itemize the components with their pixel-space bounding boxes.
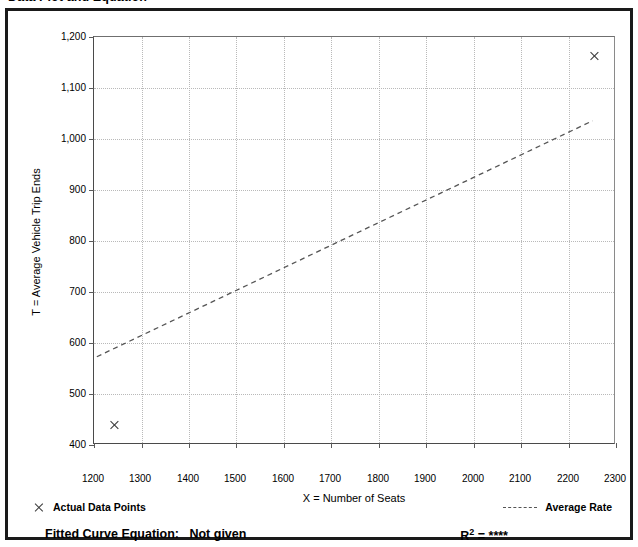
legend-label-actual: Actual Data Points [53, 501, 146, 513]
x-tick-label: 1200 [82, 473, 104, 484]
x-tick-mark [94, 443, 95, 448]
legend-label-average: Average Rate [545, 501, 612, 513]
legend-item-average-rate: Average Rate [503, 501, 612, 513]
x-tick-label: 2100 [509, 473, 531, 484]
x-tick-mark [379, 443, 380, 448]
plot-area [93, 36, 615, 444]
y-tick-label: 900 [34, 184, 86, 195]
dashed-line-icon [503, 507, 537, 508]
x-tick-label: 2300 [604, 473, 626, 484]
y-tick-label: 600 [34, 337, 86, 348]
y-tick-label: 1,200 [34, 31, 86, 42]
y-tick-mark [89, 445, 94, 446]
fitted-curve-equation-label: Fitted Curve Equation: [45, 527, 179, 541]
x-tick-mark [236, 443, 237, 448]
chart-card: T = Average Vehicle Trip Ends 1,200 1,10… [5, 8, 633, 540]
x-tick-label: 1900 [414, 473, 436, 484]
x-tick-label: 2200 [557, 473, 579, 484]
chart-legend: Actual Data Points Average Rate [8, 501, 630, 525]
r-squared-label: R [460, 529, 469, 543]
x-tick-mark [474, 443, 475, 448]
r-squared-equals: = [478, 529, 485, 543]
y-tick-label: 700 [34, 286, 86, 297]
x-tick-label: 2000 [462, 473, 484, 484]
x-tick-mark [189, 443, 190, 448]
x-tick-mark [284, 443, 285, 448]
x-marker-icon [33, 502, 44, 513]
y-tick-label: 800 [34, 235, 86, 246]
page-title: Data Plot and Equation [8, 0, 628, 6]
x-tick-mark [616, 443, 617, 448]
y-tick-label: 500 [34, 388, 86, 399]
x-tick-mark [331, 443, 332, 448]
x-tick-mark [142, 443, 143, 448]
x-tick-label: 1700 [319, 473, 341, 484]
x-tick-label: 1500 [224, 473, 246, 484]
chart-region: T = Average Vehicle Trip Ends 1,200 1,10… [8, 11, 630, 466]
r-squared-result: **** [489, 529, 508, 543]
r-squared-exponent: 2 [469, 527, 474, 537]
fitted-curve-equation: Fitted Curve Equation: Not given [45, 527, 246, 541]
y-tick-label: 1,100 [34, 82, 86, 93]
x-tick-mark [426, 443, 427, 448]
r-squared-value: R2 = **** [460, 527, 508, 543]
x-tick-mark [569, 443, 570, 448]
average-rate-trend-line [94, 37, 614, 443]
x-tick-label: 1800 [367, 473, 389, 484]
equation-row: Fitted Curve Equation: Not given R2 = **… [8, 527, 630, 547]
y-tick-label: 400 [34, 439, 86, 450]
legend-item-actual-data-points: Actual Data Points [33, 501, 146, 513]
x-tick-label: 1400 [177, 473, 199, 484]
x-tick-label: 1300 [129, 473, 151, 484]
x-tick-label: 1600 [272, 473, 294, 484]
y-tick-label: 1,000 [34, 133, 86, 144]
x-tick-mark [521, 443, 522, 448]
fitted-curve-equation-value: Not given [189, 527, 246, 541]
